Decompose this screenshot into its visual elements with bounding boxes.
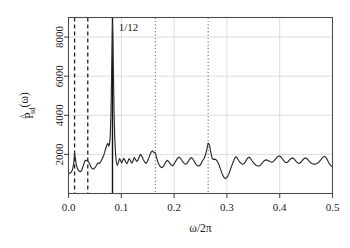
y-tick-label: 6000 — [53, 65, 65, 88]
chart-root: 0.00.10.20.30.40.5 2000400060008000 1/12… — [0, 0, 350, 248]
x-tick-label: 0.2 — [167, 201, 181, 213]
x-tick-label: 0.5 — [326, 201, 340, 213]
peak-annotation: 1/12 — [119, 21, 139, 33]
x-tick-label: 0.1 — [114, 201, 128, 213]
x-tick-label: 0.3 — [220, 201, 234, 213]
x-axis-label: ω/2π — [189, 222, 212, 234]
spectral-density-plot: 0.00.10.20.30.40.5 2000400060008000 1/12… — [0, 0, 350, 248]
y-tick-label: 8000 — [53, 26, 65, 49]
y-tick-label: 4000 — [53, 104, 65, 127]
y-tick-label: 2000 — [53, 143, 65, 166]
x-tick-label: 0.0 — [62, 201, 76, 213]
annotations-group: 1/12 — [119, 21, 139, 33]
x-tick-label: 0.4 — [273, 201, 287, 213]
